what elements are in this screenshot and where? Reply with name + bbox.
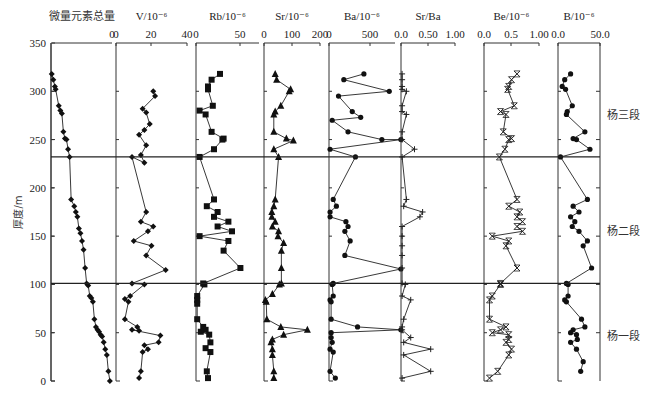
circle-marker <box>348 238 353 243</box>
circle-marker <box>327 147 332 152</box>
square-marker <box>221 248 227 254</box>
square-marker <box>225 238 231 244</box>
circle-marker <box>568 330 573 335</box>
series-layer: 微量元素总量0V/10⁻⁶02040Rb/10⁻⁶050Sr/10⁻⁶01002… <box>49 9 610 384</box>
triangle-marker <box>272 70 279 77</box>
panel-title: Ba/10⁻⁶ <box>344 10 380 22</box>
panel-6: Be/10⁻⁶0.00.51.00 <box>477 10 549 381</box>
diamond-marker <box>74 214 80 220</box>
diamond-marker <box>156 339 162 345</box>
triangle-marker <box>270 145 277 152</box>
circle-marker <box>574 347 579 352</box>
circle-marker <box>345 129 350 134</box>
triangle-marker <box>277 102 284 109</box>
circle-marker <box>572 219 577 224</box>
diamond-marker <box>56 103 62 109</box>
circle-marker <box>329 317 334 322</box>
square-marker <box>207 349 213 355</box>
square-marker <box>237 265 243 271</box>
circle-marker <box>564 299 569 304</box>
circle-marker <box>342 253 347 258</box>
circle-marker <box>358 115 363 120</box>
square-marker <box>207 339 213 345</box>
x-tick-label: 1.00 <box>529 28 549 40</box>
x-tick-label: 0.0 <box>551 28 565 40</box>
stratigraphic-chart: 050100150200250300350厚度/m 微量元素总量0V/10⁻⁶0… <box>0 0 652 402</box>
circle-marker <box>570 103 575 108</box>
y-tick-label: 0 <box>41 375 47 387</box>
diamond-marker <box>91 316 97 322</box>
circle-marker <box>329 330 334 335</box>
circle-marker <box>568 214 573 219</box>
circle-marker <box>574 332 579 337</box>
circle-marker <box>568 71 573 76</box>
circle-marker <box>581 359 586 364</box>
circle-marker <box>387 89 392 94</box>
square-marker <box>204 368 210 374</box>
panel-5: Sr/Ba0.00.501.00 <box>394 10 465 381</box>
diamond-marker <box>60 129 66 135</box>
labels-layer: 杨三段杨二段杨一段 <box>51 108 640 342</box>
x-tick-label: 0 <box>326 28 332 40</box>
diamond-marker <box>65 146 71 152</box>
circle-marker <box>587 147 592 152</box>
diamond-marker <box>82 265 88 271</box>
diamond-marker <box>107 378 113 384</box>
diamond-marker <box>149 243 155 249</box>
diamond-marker <box>122 316 128 322</box>
diamond-marker <box>143 142 149 148</box>
panel-title: Rb/10⁻⁶ <box>209 10 246 22</box>
circle-marker <box>355 324 360 329</box>
circle-marker <box>562 77 567 82</box>
y-axis-title: 厚度/m <box>12 195 24 228</box>
panel-title: Sr/10⁻⁶ <box>275 10 309 22</box>
diamond-marker <box>140 349 146 355</box>
circle-marker <box>582 324 587 329</box>
square-marker <box>229 228 235 234</box>
y-tick-label: 50 <box>35 327 47 339</box>
square-marker <box>217 71 223 77</box>
circle-marker <box>331 197 336 202</box>
triangle-marker <box>278 264 285 271</box>
diamond-marker <box>49 71 55 77</box>
diamond-marker <box>79 238 85 244</box>
y-tick-label: 200 <box>30 182 47 194</box>
y-tick-label: 150 <box>30 230 47 242</box>
diamond-marker <box>102 346 108 352</box>
circle-marker <box>576 229 581 234</box>
panel-4: Ba/10⁻⁶0500 <box>326 10 403 381</box>
square-marker <box>225 219 231 225</box>
circle-marker <box>564 112 569 117</box>
series-line <box>330 74 401 378</box>
zone-label: 杨三段 <box>607 108 640 122</box>
x-tick-label: 500 <box>362 28 379 40</box>
x-tick-label: 0.5 <box>504 28 518 40</box>
circle-marker <box>589 265 594 270</box>
square-marker <box>219 137 225 143</box>
circle-marker <box>341 77 346 82</box>
diamond-marker <box>150 88 156 94</box>
circle-marker <box>582 129 587 134</box>
diamond-marker <box>131 238 137 244</box>
circle-marker <box>331 349 336 354</box>
circle-marker <box>575 337 580 342</box>
triangle-marker <box>270 374 277 381</box>
x-tick-label: 100 <box>284 28 301 40</box>
circle-marker <box>330 282 335 287</box>
x-tick-label: 20 <box>146 28 158 40</box>
diamond-marker <box>141 160 147 166</box>
circle-marker <box>330 118 335 123</box>
square-marker <box>215 223 221 229</box>
panel-title: 微量元素总量 <box>49 9 115 23</box>
circle-marker <box>336 94 341 99</box>
panel-0: 微量元素总量0 <box>49 9 115 384</box>
triangle-marker <box>283 135 290 142</box>
circle-marker <box>361 71 366 76</box>
square-marker <box>205 375 211 381</box>
square-marker <box>205 86 211 92</box>
circle-marker <box>563 87 568 92</box>
panel-1: V/10⁻⁶02040 <box>113 10 193 381</box>
triangle-marker <box>278 247 285 254</box>
circle-marker <box>581 243 586 248</box>
panel-title: B/10⁻⁶ <box>563 10 594 22</box>
